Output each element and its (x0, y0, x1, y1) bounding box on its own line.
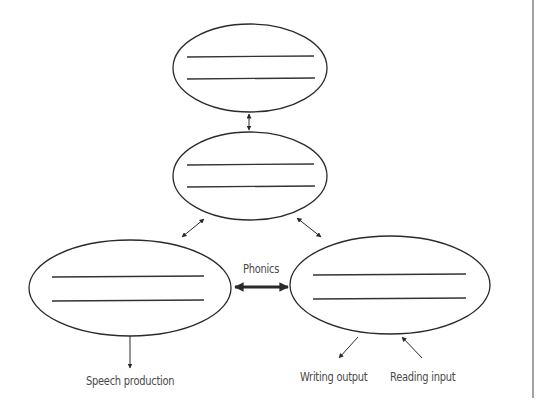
node-left-ellipse (29, 240, 231, 336)
node-middle-ellipse (173, 132, 327, 220)
node-middle-blank-line-1 (187, 164, 314, 165)
node-right-ellipse (290, 236, 490, 334)
node-top-ellipse (173, 24, 327, 112)
node-left-blank-line-2 (52, 300, 204, 301)
phonics-label: Phonics (243, 262, 279, 276)
node-top-blank-line-1 (187, 56, 314, 57)
node-left-blank-line-1 (52, 276, 204, 277)
arrow-writing-output (339, 337, 358, 358)
reading-input-label: Reading input (390, 370, 455, 384)
speech-production-label: Speech production (86, 374, 174, 388)
writing-output-label: Writing output (300, 370, 367, 384)
node-top-blank-line-2 (187, 78, 315, 79)
node-right (290, 236, 490, 334)
arrow-middle-left (182, 219, 204, 237)
diagram-canvas (0, 0, 537, 412)
node-right-blank-line-2 (313, 298, 466, 299)
arrow-middle-right (297, 218, 321, 237)
node-left (29, 240, 231, 336)
node-middle (173, 132, 327, 220)
node-top (173, 24, 327, 112)
arrow-reading-input (402, 337, 422, 358)
node-right-blank-line-1 (313, 274, 466, 275)
node-middle-blank-line-2 (187, 186, 315, 187)
